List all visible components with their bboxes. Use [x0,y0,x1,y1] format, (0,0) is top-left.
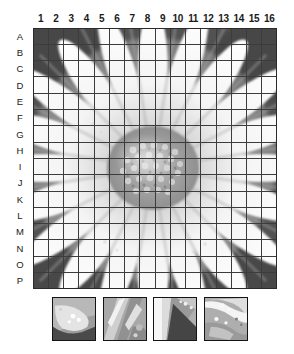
row-label-e: E [10,93,30,109]
row-label-n: N [10,240,30,256]
column-label-6: 6 [109,11,124,26]
row-label-h: H [10,142,30,158]
column-label-2: 2 [48,11,63,26]
row-label-o: O [10,256,30,272]
column-label-7: 7 [125,11,140,26]
column-label-8: 8 [140,11,155,26]
gridded-image-panel[interactable] [33,28,277,289]
row-label-a: A [10,28,30,44]
column-label-1: 1 [33,11,48,26]
column-header-row: 1 2 3 4 5 6 7 8 9 10 11 12 13 14 15 16 [33,11,277,26]
column-label-12: 12 [201,11,216,26]
column-label-4: 4 [79,11,94,26]
row-label-i: I [10,159,30,175]
row-label-g: G [10,126,30,142]
row-header-column: A B C D E F G H I J K L M N O P [10,28,30,289]
detail-crop-1[interactable] [52,297,96,341]
column-label-14: 14 [231,11,246,26]
row-label-j: J [10,175,30,191]
detail-crop-2-image [104,298,146,340]
column-label-3: 3 [64,11,79,26]
column-label-16: 16 [262,11,277,26]
daisy-flower-photo [33,28,277,289]
row-label-l: L [10,207,30,223]
column-label-10: 10 [170,11,185,26]
detail-crop-2[interactable] [103,297,147,341]
column-label-13: 13 [216,11,231,26]
column-label-15: 15 [247,11,262,26]
row-label-m: M [10,224,30,240]
detail-thumbnail-strip [52,297,248,343]
row-label-b: B [10,44,30,60]
detail-crop-3[interactable] [153,297,197,341]
column-label-11: 11 [186,11,201,26]
column-label-5: 5 [94,11,109,26]
row-label-c: C [10,61,30,77]
detail-crop-1-image [53,298,95,340]
row-label-f: F [10,110,30,126]
row-label-d: D [10,77,30,93]
detail-crop-4[interactable] [204,297,248,341]
row-label-k: K [10,191,30,207]
detail-crop-4-image [205,298,247,340]
column-label-9: 9 [155,11,170,26]
row-label-p: P [10,273,30,289]
detail-crop-3-image [154,298,196,340]
